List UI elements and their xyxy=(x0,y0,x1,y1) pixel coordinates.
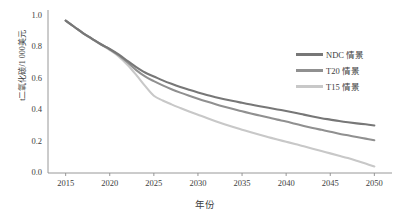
legend-label: T20 情景 xyxy=(326,64,360,76)
legend-item-1: T20 情景 xyxy=(296,62,400,78)
x-tick-label: 2045 xyxy=(314,178,346,188)
legend-label: NDC 情景 xyxy=(326,48,364,60)
y-tick-label: 0.4 xyxy=(16,104,42,114)
legend-item-0: NDC 情景 xyxy=(296,46,400,62)
x-tick-label: 2030 xyxy=(182,178,214,188)
legend-item-2: T15 情景 xyxy=(296,78,400,94)
legend-line-icon xyxy=(296,69,323,72)
y-tick-label: 1.0 xyxy=(16,10,42,20)
x-tick-label: 2015 xyxy=(50,178,82,188)
x-tick-label: 2040 xyxy=(270,178,302,188)
x-tick-label: 2050 xyxy=(358,178,390,188)
y-tick-label: 0.6 xyxy=(16,73,42,83)
emission-intensity-line-chart: t二氧化碳/1 000美元 年份 0.00.20.40.60.81.0 2015… xyxy=(0,0,401,222)
legend-line-icon xyxy=(296,85,323,88)
x-axis-title: 年份 xyxy=(150,197,260,211)
y-axis-title: t二氧化碳/1 000美元 xyxy=(16,16,27,116)
x-tick-label: 2025 xyxy=(138,178,170,188)
y-tick-label: 0.8 xyxy=(16,41,42,51)
y-tick-label: 0.2 xyxy=(16,136,42,146)
x-tick-label: 2020 xyxy=(94,178,126,188)
x-tick-label: 2035 xyxy=(226,178,258,188)
y-tick-label: 0.0 xyxy=(16,167,42,177)
legend-line-icon xyxy=(296,53,323,56)
plot-area xyxy=(0,0,401,222)
legend-label: T15 情景 xyxy=(326,80,360,92)
chart-legend: NDC 情景T20 情景T15 情景 xyxy=(296,46,400,94)
